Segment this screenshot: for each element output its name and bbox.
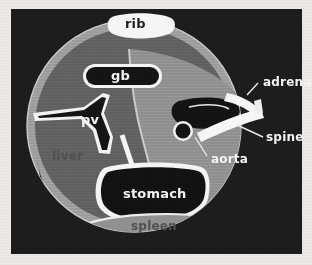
scan-plate: rib gb pv liver stomach spleen adrenal s… [11, 9, 302, 254]
figure-root: rib gb pv liver stomach spleen adrenal s… [0, 0, 312, 265]
scan-grain-texture [11, 9, 302, 254]
